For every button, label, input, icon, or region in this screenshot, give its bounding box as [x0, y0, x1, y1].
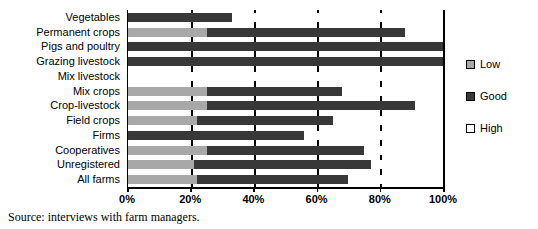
stacked-bar: [128, 160, 443, 169]
stacked-bar: [128, 57, 443, 66]
x-axis-tick-label: 100%: [429, 193, 457, 205]
bar-segment-good: [128, 13, 232, 22]
high-swatch: [466, 124, 475, 133]
category-label: Crop-livestock: [0, 99, 124, 114]
bar-segment-low: [128, 116, 197, 125]
stacked-bar: [128, 116, 443, 125]
source-note: Source: interviews with farm managers.: [8, 210, 200, 225]
bar-segment-low: [128, 87, 207, 96]
bar-segment-low: [128, 28, 207, 37]
good-swatch: [466, 92, 475, 101]
x-axis-tick-label: 0%: [119, 193, 135, 205]
bar-row: [128, 99, 443, 114]
plot-area: [127, 10, 443, 187]
bar-segment-high: [364, 146, 443, 155]
bar-segment-low: [128, 175, 197, 184]
bar-row: [128, 69, 443, 84]
category-label: Cooperatives: [0, 143, 124, 158]
category-label: Field crops: [0, 113, 124, 128]
bar-segment-low: [128, 160, 194, 169]
bar-segment-high: [415, 101, 443, 110]
stacked-bar: [128, 101, 443, 110]
bar-segment-good: [128, 57, 443, 66]
x-axis-tick-label: 20%: [179, 193, 201, 205]
stacked-bar: [128, 13, 443, 22]
bar-row: [128, 172, 443, 187]
x-axis-tick: [127, 187, 129, 192]
stacked-bar-chart: VegetablesPermanent cropsPigs and poultr…: [0, 0, 538, 229]
x-axis-tick: [253, 187, 255, 192]
bar-segment-good: [197, 175, 348, 184]
bar-segment-high: [405, 28, 443, 37]
chart-legend: LowGoodHigh: [466, 58, 536, 134]
bar-row: [128, 158, 443, 173]
category-label: Mix crops: [0, 84, 124, 99]
x-axis-tick-labels: 0%20%40%60%80%100%: [127, 193, 443, 209]
category-axis-labels: VegetablesPermanent cropsPigs and poultr…: [0, 10, 124, 187]
legend-label: Low: [480, 58, 500, 70]
bar-segment-good: [207, 87, 342, 96]
category-label: Vegetables: [0, 10, 124, 25]
bar-segment-good: [128, 42, 443, 51]
low-swatch: [466, 60, 475, 69]
legend-label: Good: [480, 90, 507, 102]
x-axis-tick-label: 80%: [369, 193, 391, 205]
stacked-bar: [128, 146, 443, 155]
bar-segment-high: [304, 131, 443, 140]
category-label: Unregistered: [0, 158, 124, 173]
bar-segment-low: [128, 101, 207, 110]
x-axis-tick-label: 40%: [242, 193, 264, 205]
bar-segment-good: [207, 146, 365, 155]
category-label: Pigs and poultry: [0, 40, 124, 55]
gridline: [443, 10, 445, 187]
bar-row: [128, 54, 443, 69]
stacked-bar: [128, 72, 443, 81]
bar-segment-good: [128, 131, 304, 140]
bar-rows: [128, 10, 443, 187]
x-axis-tick: [190, 187, 192, 192]
bar-segment-high: [232, 13, 443, 22]
x-axis-line: [127, 187, 443, 189]
category-label: Mix livestock: [0, 69, 124, 84]
bar-segment-good: [194, 160, 370, 169]
bar-row: [128, 143, 443, 158]
stacked-bar: [128, 87, 443, 96]
bar-row: [128, 25, 443, 40]
legend-label: High: [480, 122, 503, 134]
bar-segment-good: [207, 101, 415, 110]
bar-row: [128, 113, 443, 128]
legend-item-good: Good: [466, 90, 536, 102]
x-axis-tick: [380, 187, 382, 192]
stacked-bar: [128, 42, 443, 51]
bar-segment-high: [371, 160, 443, 169]
bar-row: [128, 84, 443, 99]
category-label: Permanent crops: [0, 25, 124, 40]
stacked-bar: [128, 131, 443, 140]
bar-segment-high: [128, 72, 443, 81]
bar-segment-high: [348, 175, 443, 184]
bar-row: [128, 10, 443, 25]
stacked-bar: [128, 28, 443, 37]
x-axis-tick: [317, 187, 319, 192]
legend-item-low: Low: [466, 58, 536, 70]
x-axis-tick-label: 60%: [306, 193, 328, 205]
legend-item-high: High: [466, 122, 536, 134]
category-label: Firms: [0, 128, 124, 143]
bar-row: [128, 40, 443, 55]
bar-segment-high: [333, 116, 443, 125]
bar-segment-low: [128, 146, 207, 155]
bar-segment-good: [197, 116, 332, 125]
bar-segment-good: [207, 28, 405, 37]
x-axis-tick: [443, 187, 445, 192]
bar-segment-high: [342, 87, 443, 96]
category-label: All farms: [0, 172, 124, 187]
stacked-bar: [128, 175, 443, 184]
category-label: Grazing livestock: [0, 54, 124, 69]
bar-row: [128, 128, 443, 143]
